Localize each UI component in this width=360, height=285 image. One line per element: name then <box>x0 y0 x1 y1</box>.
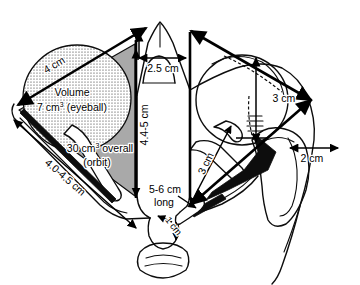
clivus-inner-line-1 <box>146 255 181 258</box>
eyeball-volume-unit: (eyeball) <box>64 101 107 113</box>
right-optic-axis-dashed <box>224 56 282 92</box>
label-eyeball-volume-title: Volume <box>54 86 89 98</box>
orbit-anatomy-figure: 4 cm Volume 7 cm3 (eyeball) 30 cm3 overa… <box>0 0 360 285</box>
orbit-volume-number: 30 cm <box>67 142 96 154</box>
label-orbit-volume-caption: (orbit) <box>83 156 110 168</box>
label-interorbital-distance: 2.5 cm <box>147 62 179 74</box>
label-nerve-length-line1: 5-6 cm <box>149 183 181 195</box>
maxillary-sinus-inner-detail <box>280 138 297 216</box>
label-orbit-height: 4.4-5 cm <box>138 104 150 145</box>
label-orbit-apex-depth: 3 cm <box>273 92 296 104</box>
anatomy-diagram-root: 4 cm Volume 7 cm3 (eyeball) 30 cm3 overa… <box>0 0 360 285</box>
label-orbit-lateral-wall: 4.0-4.5 cm <box>43 156 89 198</box>
label-maxillary-sinus-width: 2 cm <box>301 152 324 164</box>
measure-right-orbit-roof <box>191 31 311 100</box>
right-lateral-orbit-wall <box>272 96 314 284</box>
orbit-volume-unit: overall <box>99 142 133 154</box>
eyeball-volume-number: 7 cm <box>37 101 60 113</box>
label-eyeball-volume-value: 7 cm3 (eyeball) <box>37 101 107 113</box>
clivus-inner-line-2 <box>145 264 182 267</box>
label-orbit-volume-value: 30 cm3 overall <box>67 142 133 154</box>
label-nerve-length-line2: long <box>154 196 174 208</box>
clivus-outline <box>138 243 189 278</box>
